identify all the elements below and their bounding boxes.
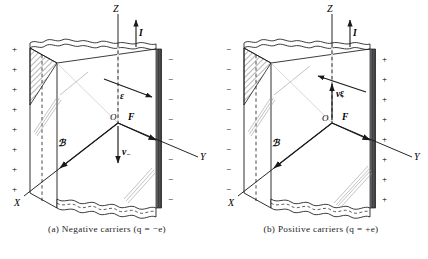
right-face-charge-signs: + + + + + + + +	[382, 54, 387, 204]
vector-electric-field: ε	[104, 79, 152, 101]
charge-sign: +	[382, 114, 387, 124]
right-plate-dark-bar	[370, 49, 375, 208]
slab-top-torn-edge	[30, 39, 156, 49]
panel-a-caption-text: (a) Negative carriers (q = −e)	[48, 224, 166, 234]
charge-sign: −	[168, 134, 173, 144]
force-arrow	[118, 123, 156, 140]
hall-effect-figure: Z Y X O I ε F	[0, 0, 428, 259]
panel-a-caption: (a) Negative carriers (q = −e)	[0, 224, 214, 234]
vector-force: F	[332, 112, 370, 140]
panel-a-drawing: Z Y X O I ε F	[0, 0, 214, 225]
right-face-charge-signs: − − − − − − − −	[168, 54, 173, 204]
charge-sign: +	[12, 104, 17, 114]
charge-sign: −	[226, 144, 231, 154]
charge-sign: +	[12, 44, 17, 54]
slab-top-torn-edge	[244, 39, 370, 49]
charge-sign: −	[226, 104, 231, 114]
charge-sign: −	[168, 74, 173, 84]
charge-sign: +	[12, 184, 17, 194]
current-label: I	[352, 28, 357, 38]
electric-field-arrow	[104, 79, 152, 97]
charge-sign: +	[12, 64, 17, 74]
charge-sign: +	[382, 134, 387, 144]
slab-interior-shading-2	[124, 168, 156, 203]
vector-magnetic-field: ℬ	[58, 123, 118, 168]
charge-sign: +	[382, 54, 387, 64]
slab-interior-shading-2	[334, 166, 372, 208]
left-face-charge-signs: + + + + + + + +	[12, 44, 17, 194]
charge-sign: +	[382, 94, 387, 104]
charge-sign: −	[168, 174, 173, 184]
charge-sign: +	[12, 164, 17, 174]
charge-sign: −	[168, 54, 173, 64]
force-arrow	[332, 123, 370, 140]
axis-label-z: Z	[327, 3, 333, 14]
origin-label: O	[110, 112, 117, 122]
charge-sign: −	[168, 114, 173, 124]
slab-body	[30, 39, 161, 218]
charge-sign: −	[226, 124, 231, 134]
left-face-charge-signs: − − − − − − − −	[226, 44, 231, 194]
magnetic-field-label: ℬ	[272, 138, 281, 148]
magnetic-field-arrow	[60, 123, 118, 168]
magnetic-field-arrow	[274, 123, 332, 168]
charge-sign: +	[382, 74, 387, 84]
charge-sign: −	[226, 84, 231, 94]
slab-bottom-torn-edge	[57, 199, 156, 218]
axis-label-y: Y	[414, 151, 421, 162]
right-plate-dark-bar	[156, 49, 161, 208]
slab-top-back-edge	[57, 49, 156, 63]
charge-sign: +	[382, 174, 387, 184]
charge-sign: +	[12, 124, 17, 134]
panel-b-caption: (b) Positive carriers (q = +e)	[214, 224, 428, 234]
axis-label-x: X	[13, 197, 21, 208]
charge-sign: −	[226, 164, 231, 174]
charge-sign: +	[382, 194, 387, 204]
figure-panel-b: Z Y X O I ε F ℬ	[214, 0, 428, 259]
force-label: F	[127, 112, 135, 122]
axis-label-x: X	[227, 197, 235, 208]
charge-sign: −	[168, 94, 173, 104]
current-label: I	[138, 28, 143, 38]
perspective-guide	[57, 63, 118, 123]
vector-drift-velocity: v−	[118, 126, 130, 163]
magnetic-field-label: ℬ	[58, 138, 67, 148]
panel-b-drawing: Z Y X O I ε F ℬ	[214, 0, 428, 225]
charge-sign: −	[168, 154, 173, 164]
slab-top-back-edge	[271, 49, 370, 63]
charge-sign: −	[168, 194, 173, 204]
panel-b-caption-text: (b) Positive carriers (q = +e)	[264, 224, 379, 234]
charge-sign: +	[12, 84, 17, 94]
charge-sign: +	[12, 144, 17, 154]
origin-label: O	[322, 113, 329, 123]
charge-sign: −	[226, 44, 231, 54]
axis-label-y: Y	[200, 151, 207, 162]
slab-body	[244, 39, 375, 218]
axis-label-z: Z	[113, 3, 119, 14]
charge-sign: −	[226, 64, 231, 74]
electric-field-label: ε	[120, 91, 124, 101]
drift-velocity-label: v−	[122, 147, 130, 159]
charge-sign: +	[382, 154, 387, 164]
force-label: F	[341, 112, 349, 122]
vector-magnetic-field: ℬ	[272, 123, 332, 168]
figure-panel-a: Z Y X O I ε F	[0, 0, 214, 259]
charge-sign: −	[226, 184, 231, 194]
slab-bottom-torn-edge	[271, 199, 370, 218]
vector-force: F	[118, 112, 156, 140]
